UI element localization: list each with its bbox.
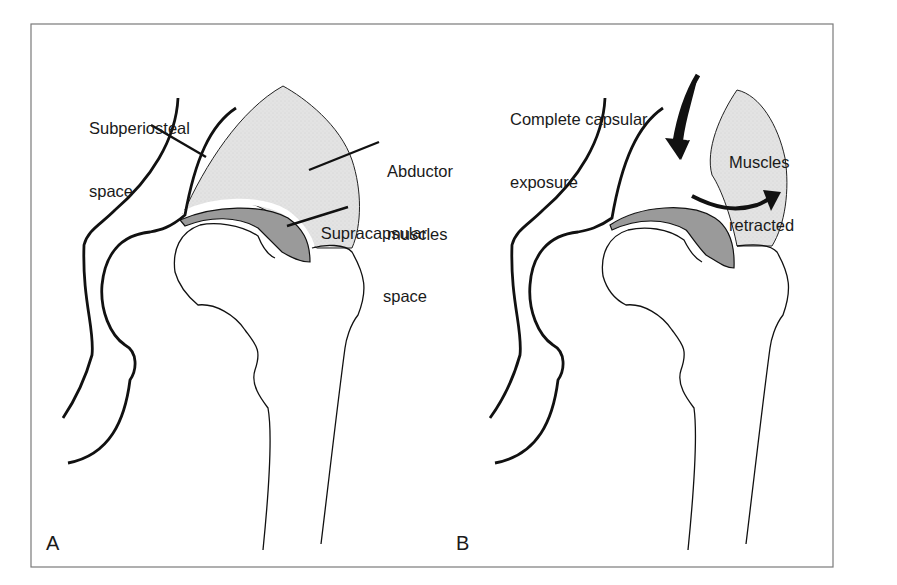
panel-letter-a: A (46, 532, 59, 555)
label-line: space (89, 181, 190, 202)
label-line: space (295, 286, 427, 307)
label-line: Supracapsular (295, 223, 427, 244)
label-line: Abductor (387, 161, 453, 182)
label-supracapsular-space: Supracapsular space (295, 181, 427, 349)
femur-outline-b (602, 230, 788, 550)
label-subperiosteal-space: Subperiosteal space (89, 76, 190, 244)
label-line: Complete capsular (510, 109, 648, 130)
label-line: exposure (510, 172, 648, 193)
hip-exposure-figure: Subperiosteal space Abductor muscles Sup… (0, 0, 897, 585)
label-line: Muscles (729, 152, 794, 173)
label-line: retracted (729, 215, 794, 236)
label-complete-capsular-exposure: Complete capsular exposure (510, 67, 648, 235)
label-line: Subperiosteal (89, 118, 190, 139)
panel-letter-b: B (456, 532, 469, 555)
label-muscles-retracted: Muscles retracted (729, 110, 794, 278)
